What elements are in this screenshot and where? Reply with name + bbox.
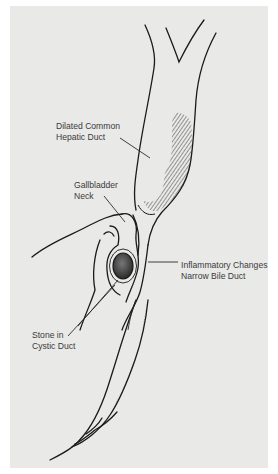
label-stone-in-cystic-duct: Stone in Cystic Duct	[32, 330, 75, 351]
label-gallbladder-neck: Gallbladder Neck	[74, 180, 118, 201]
label-dilated-common-hepatic-duct: Dilated Common Hepatic Duct	[56, 121, 120, 142]
gallstone	[113, 253, 133, 279]
bile-duct-illustration	[0, 0, 278, 474]
leader-lines	[68, 138, 178, 336]
label-inflammatory-changes: Inflammatory Changes Narrow Bile Duct	[181, 260, 267, 281]
duct-shading	[143, 113, 192, 211]
